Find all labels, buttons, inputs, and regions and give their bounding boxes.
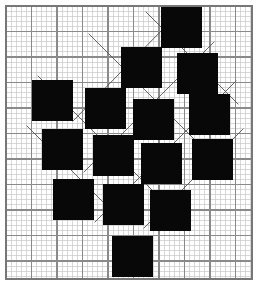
black-square-7	[189, 94, 230, 135]
black-square-13	[103, 184, 144, 225]
black-square-14	[150, 190, 191, 231]
black-square-11	[192, 139, 233, 180]
black-square-6	[133, 99, 174, 140]
black-square-2	[121, 47, 162, 88]
black-square-9	[93, 135, 134, 176]
black-square-1	[161, 7, 202, 48]
graph-paper-figure	[0, 0, 260, 287]
figure-canvas	[0, 0, 260, 287]
black-square-15	[112, 236, 153, 277]
black-square-12	[53, 179, 94, 220]
black-square-5	[85, 88, 126, 129]
black-square-8	[42, 129, 83, 170]
black-square-10	[141, 143, 182, 184]
black-square-4	[32, 80, 73, 121]
black-square-3	[177, 53, 218, 94]
